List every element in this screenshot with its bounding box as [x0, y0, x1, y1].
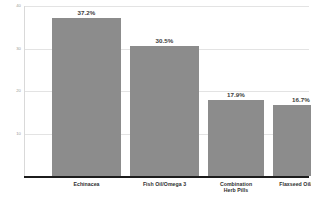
- bar-value-combination-herb-pills: 17.9%: [208, 91, 264, 98]
- category-label-combination-herb-pills: Combination Herb Pills: [205, 181, 267, 193]
- x-axis-baseline: [24, 176, 309, 178]
- bars-layer: [24, 6, 309, 176]
- category-label-line: Fish Oil/Omega 3: [130, 181, 199, 187]
- category-label-echinacea: Echinacea: [52, 181, 121, 187]
- y-tick-label-20: 20: [2, 88, 21, 93]
- category-label-flaxseed-oil-pills: Flaxseed Oil/Pills: [270, 181, 311, 187]
- bar-value-flaxseed-oil-pills: 16.7%: [273, 96, 311, 103]
- bar-value-echinacea: 37.2%: [52, 9, 121, 16]
- bar-value-fish-oil-omega-3: 30.5%: [130, 37, 199, 44]
- category-label-fish-oil-omega-3: Fish Oil/Omega 3: [130, 181, 199, 187]
- category-label-line: Flaxseed Oil/Pills: [270, 181, 311, 187]
- category-label-line: Echinacea: [52, 181, 121, 187]
- bar-combination-herb-pills: [208, 100, 264, 176]
- y-tick-label-30: 30: [2, 46, 21, 51]
- bar-chart: 40 30 20 10 37.2% 30.5% 17.9% 16.7% Echi…: [0, 0, 311, 202]
- category-label-line: Herb Pills: [205, 187, 267, 193]
- bar-flaxseed-oil-pills: [273, 105, 311, 176]
- bar-echinacea: [52, 18, 121, 176]
- bar-fish-oil-omega-3: [130, 46, 199, 176]
- y-tick-label-10: 10: [2, 131, 21, 136]
- y-tick-label-40: 40: [2, 3, 21, 8]
